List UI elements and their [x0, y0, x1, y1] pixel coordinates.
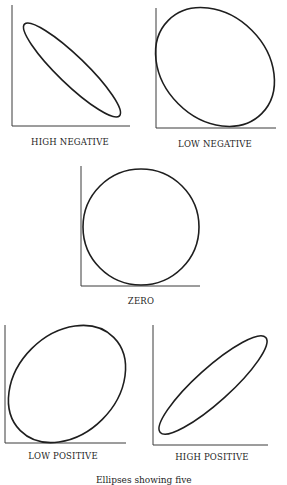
correlation-circle: [83, 169, 199, 285]
correlation-ellipse: [149, 325, 277, 445]
panel-label-high-negative: HIGH NEGATIVE: [31, 137, 109, 147]
correlation-ellipse: [0, 302, 149, 466]
panel-label-low-positive: LOW POSITIVE: [28, 451, 98, 461]
panel-label-high-positive: HIGH POSITIVE: [175, 452, 249, 462]
figure-caption: Ellipses showing five: [96, 475, 192, 485]
panel-zero: [81, 166, 200, 286]
panel-label-low-negative: LOW NEGATIVE: [178, 139, 252, 149]
panel-label-zero: ZERO: [128, 296, 154, 306]
panel-low-positive: [0, 302, 149, 466]
panel-high-positive: [149, 325, 277, 445]
correlation-ellipse: [15, 14, 129, 126]
panel-high-negative: [12, 5, 130, 126]
panel-low-negative: [132, 0, 287, 150]
